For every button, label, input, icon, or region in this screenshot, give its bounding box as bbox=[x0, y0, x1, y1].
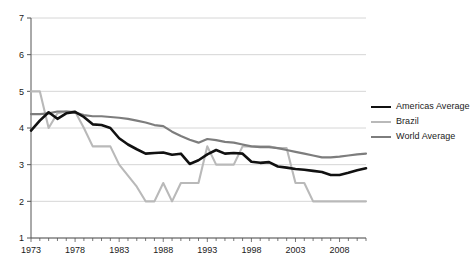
svg-text:4: 4 bbox=[19, 123, 24, 133]
svg-text:1978: 1978 bbox=[65, 245, 85, 255]
legend-label-americas-average: Americas Average bbox=[396, 101, 470, 112]
legend-item-world-average: World Average bbox=[371, 131, 470, 142]
y-tick-label-group: 1234567 bbox=[19, 13, 31, 243]
svg-text:6: 6 bbox=[19, 50, 24, 60]
legend-item-americas-average: Americas Average bbox=[371, 101, 470, 112]
legend-swatch-world-average bbox=[371, 136, 391, 138]
gridline-group bbox=[31, 18, 366, 238]
legend-swatch-americas-average bbox=[371, 106, 391, 108]
svg-text:1973: 1973 bbox=[21, 245, 41, 255]
legend-label-brazil: Brazil bbox=[396, 116, 419, 127]
svg-text:1993: 1993 bbox=[197, 245, 217, 255]
chart-container: 1234567 19731978198319881993199820032008… bbox=[0, 0, 474, 266]
svg-text:2008: 2008 bbox=[330, 245, 350, 255]
chart-legend: Americas Average Brazil World Average bbox=[371, 101, 470, 142]
svg-text:2: 2 bbox=[19, 197, 24, 207]
svg-text:1998: 1998 bbox=[241, 245, 261, 255]
legend-swatch-brazil bbox=[371, 121, 391, 123]
svg-text:1: 1 bbox=[19, 233, 24, 243]
legend-label-world-average: World Average bbox=[396, 131, 455, 142]
x-tick-label-group: 19731978198319881993199820032008 bbox=[21, 245, 350, 255]
svg-text:2003: 2003 bbox=[285, 245, 305, 255]
legend-item-brazil: Brazil bbox=[371, 116, 470, 127]
svg-text:5: 5 bbox=[19, 87, 24, 97]
x-tick-group bbox=[31, 238, 366, 242]
svg-text:3: 3 bbox=[19, 160, 24, 170]
svg-text:1983: 1983 bbox=[109, 245, 129, 255]
svg-text:1988: 1988 bbox=[153, 245, 173, 255]
data-series-group bbox=[31, 91, 366, 201]
svg-text:7: 7 bbox=[19, 13, 24, 23]
